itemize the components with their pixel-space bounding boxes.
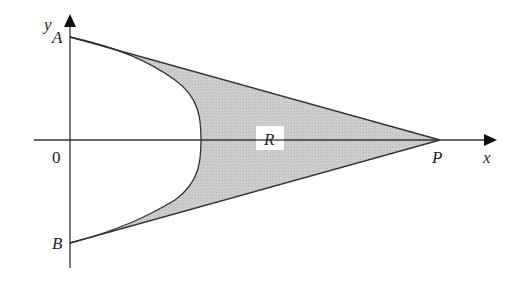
x-axis-label: x (482, 148, 491, 167)
x-axis-arrow-icon (484, 134, 497, 146)
region-r-label: R (263, 130, 275, 149)
y-axis-label: y (42, 15, 52, 34)
point-b-label: B (52, 234, 63, 253)
origin-label: 0 (52, 148, 61, 167)
diagram: y A 0 B P x R (0, 0, 515, 294)
y-axis-arrow-icon (64, 14, 76, 27)
point-p-label: P (431, 148, 442, 167)
point-a-label: A (51, 28, 63, 47)
